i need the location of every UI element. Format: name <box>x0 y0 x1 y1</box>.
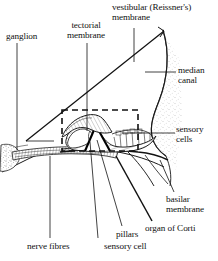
label-vestibular-membrane: vestibular (Reissner's) membrane <box>112 2 216 23</box>
label-sensory-cells: sensory cells <box>176 124 218 145</box>
median-canal <box>151 30 182 170</box>
label-organ-of-corti: organ of Corti <box>145 223 196 233</box>
figure-canvas: ganglion tectorial membrane vestibular (… <box>0 0 218 261</box>
leader-organ-corti <box>116 156 152 221</box>
label-sensory-cell: sensory cell <box>104 241 146 251</box>
label-basilar-membrane: basilar membrane <box>166 194 218 215</box>
leader-sensory-cell <box>90 142 98 238</box>
label-pillars: pillars <box>116 229 138 239</box>
label-nerve-fibres: nerve fibres <box>27 241 69 251</box>
label-tectorial-membrane: tectorial membrane <box>55 20 117 41</box>
leader-basilar <box>160 160 174 192</box>
label-median-canal: median canal <box>178 65 218 86</box>
organ-of-corti <box>66 124 156 152</box>
label-ganglion: ganglion <box>6 31 37 41</box>
